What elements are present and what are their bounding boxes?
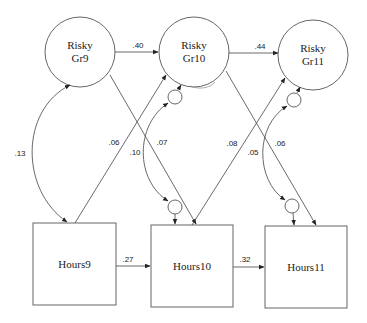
node-label: Risky xyxy=(181,39,207,51)
error-arrow-hours11 xyxy=(293,213,294,225)
coef-label: .40 xyxy=(132,41,144,50)
node-hours10: Hours10 xyxy=(151,225,233,307)
error-arrow-gr10 xyxy=(178,85,181,90)
node-label: Risky xyxy=(67,39,93,51)
error-term-gr10 xyxy=(168,90,182,104)
covariance-gr9-hours9 xyxy=(32,85,70,222)
node-label: Risky xyxy=(300,42,326,54)
path-diagram: Risky Gr9 Risky Gr10 Risky Gr11 Hours9 H… xyxy=(0,0,367,323)
coef-label: .07 xyxy=(156,138,168,147)
coef-label: .06 xyxy=(108,138,120,147)
covariance-e-gr11-hours11 xyxy=(263,106,287,200)
node-label: Gr10 xyxy=(183,52,206,64)
coef-label: .08 xyxy=(226,139,238,148)
node-label: Gr9 xyxy=(71,52,89,64)
node-hours9: Hours9 xyxy=(33,223,116,305)
coef-label: .10 xyxy=(129,148,141,157)
covariance-e-gr10-hours10 xyxy=(143,103,168,201)
error-term-hours10 xyxy=(168,200,182,214)
error-term-hours11 xyxy=(285,199,299,213)
node-label: Gr11 xyxy=(302,55,324,67)
node-risky-gr11: Risky Gr11 xyxy=(278,20,348,90)
node-label: Hours10 xyxy=(173,260,211,272)
coef-label: .06 xyxy=(274,139,286,148)
node-label: Hours9 xyxy=(58,258,91,270)
coef-label: .32 xyxy=(239,255,251,264)
node-risky-gr9: Risky Gr9 xyxy=(45,17,115,87)
node-label: Hours11 xyxy=(287,261,324,273)
path-hours10-gr11 xyxy=(192,78,285,225)
coef-label: .05 xyxy=(247,148,259,157)
error-arrow-gr11 xyxy=(297,87,300,93)
path-gr9-hours10 xyxy=(110,75,196,224)
node-risky-gr10: Risky Gr10 xyxy=(159,17,229,87)
node-hours11: Hours11 xyxy=(265,226,347,308)
path-gr10-hours11 xyxy=(226,71,316,225)
error-term-gr11 xyxy=(287,93,301,107)
coef-label: .13 xyxy=(14,149,26,158)
coef-label: .27 xyxy=(122,255,134,264)
coef-label: .44 xyxy=(254,42,266,51)
